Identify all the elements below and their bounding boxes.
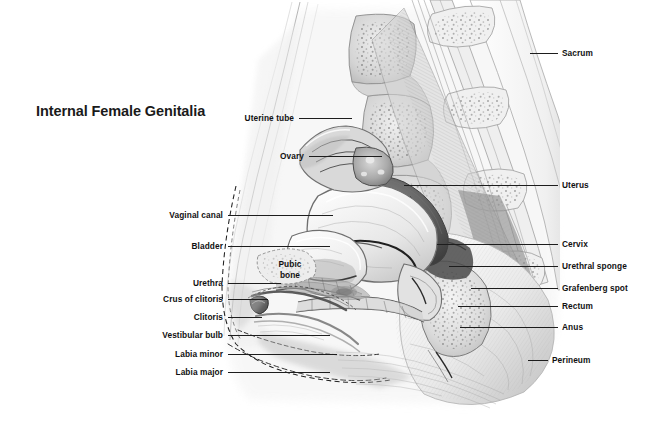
label-urethral-sponge: Urethral sponge <box>562 262 627 271</box>
leader-line-sacrum <box>530 53 558 54</box>
label-labia-major: Labia major <box>176 368 223 377</box>
leader-line-urethral-sponge <box>449 266 558 267</box>
page-title: Internal Female Genitalia <box>36 103 205 119</box>
label-vaginal-canal: Vaginal canal <box>169 211 223 220</box>
label-overlay: Internal Female Genitalia Uterine tubeOv… <box>0 0 664 427</box>
leader-line-cervix <box>437 244 558 245</box>
label-clitoris: Clitoris <box>194 313 223 322</box>
label-crus-of-clitoris: Crus of clitoris <box>163 295 223 304</box>
label-uterus: Uterus <box>562 181 589 190</box>
leader-line-vaginal-canal <box>228 215 333 216</box>
label-vestibular-bulb: Vestibular bulb <box>162 331 223 340</box>
label-pubic-bone-line1: Pubic <box>278 259 301 270</box>
leader-line-clitoris <box>228 317 262 318</box>
leader-line-labia-major <box>228 372 330 373</box>
label-bladder: Bladder <box>192 242 223 251</box>
label-grafenberg-spot: Grafenberg spot <box>562 284 628 293</box>
label-anus: Anus <box>562 323 583 332</box>
label-ovary: Ovary <box>280 152 304 161</box>
label-sacrum: Sacrum <box>562 49 593 58</box>
label-perineum: Perineum <box>552 356 590 365</box>
label-pubic-bone: Pubicbone <box>278 259 301 281</box>
leader-line-crus-of-clitoris <box>228 299 268 300</box>
label-labia-minor: Labia minor <box>175 350 223 359</box>
figure-canvas: Internal Female Genitalia Uterine tubeOv… <box>0 0 664 427</box>
leader-line-labia-minor <box>228 354 337 355</box>
leader-line-ovary <box>309 156 382 157</box>
leader-line-anus <box>460 327 558 328</box>
label-pubic-bone-line2: bone <box>278 270 301 281</box>
leader-line-bladder <box>228 246 330 247</box>
label-cervix: Cervix <box>562 240 588 249</box>
leader-line-rectum <box>458 306 558 307</box>
leader-line-grafenberg-spot <box>471 288 558 289</box>
leader-line-uterine-tube <box>299 118 352 119</box>
leader-line-perineum <box>528 360 548 361</box>
label-rectum: Rectum <box>562 302 593 311</box>
label-urethra: Urethra <box>193 279 223 288</box>
leader-line-urethra <box>228 283 281 284</box>
label-uterine-tube: Uterine tube <box>245 114 294 123</box>
leader-line-uterus <box>404 185 558 186</box>
leader-line-vestibular-bulb <box>228 335 330 336</box>
